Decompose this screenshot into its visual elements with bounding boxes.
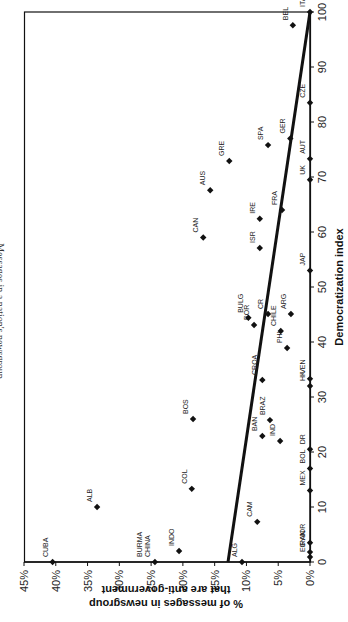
- x-tick-label: 60: [316, 226, 328, 238]
- chart-title: Messages in a nation's newsgroup: [0, 243, 6, 379]
- data-point-label: ITA: [299, 0, 306, 7]
- data-point: [259, 433, 265, 439]
- data-point-label: IRE: [249, 202, 256, 214]
- data-point-label: VEN: [299, 359, 306, 373]
- data-point-label: AUS: [199, 170, 206, 185]
- x-tick-label: 100: [316, 3, 328, 21]
- data-point-label: ARG: [280, 294, 287, 309]
- x-tick-label: 40: [316, 336, 328, 348]
- x-tick-label: 20: [316, 446, 328, 458]
- data-point-label: UK: [299, 165, 306, 175]
- y-axis-title-line1: % of messages in newsgroup: [89, 598, 243, 610]
- data-point: [307, 376, 313, 382]
- data-point: [307, 177, 313, 183]
- data-point: [307, 540, 313, 546]
- scatter-chart: Messages in a nation's newsgroup 0102030…: [0, 0, 348, 622]
- x-axis-ticks: 0102030405060708090100: [310, 3, 328, 565]
- data-point: [251, 322, 257, 328]
- data-point: [239, 559, 245, 565]
- data-point-label: GRE: [218, 141, 225, 157]
- data-point: [254, 519, 260, 525]
- data-point: [207, 187, 213, 193]
- data-point-label: IND: [269, 424, 276, 436]
- data-point-label: ISR: [249, 231, 256, 243]
- data-point: [307, 100, 313, 106]
- data-point: [307, 156, 313, 162]
- x-tick-label: 10: [316, 501, 328, 513]
- data-points: CUBACHINABURMAINDOALGEGYIRANJORALBCAMCOL…: [42, 0, 314, 565]
- data-point-label: MEX: [299, 470, 306, 486]
- data-point-label: CUBA: [42, 537, 49, 557]
- data-point-label: CAN: [192, 218, 199, 233]
- data-point: [277, 438, 283, 444]
- data-point: [259, 377, 265, 383]
- data-point-label: PHI: [276, 331, 283, 343]
- y-tick-label: 0%: [304, 570, 316, 586]
- trend-line: [228, 12, 310, 562]
- data-point-label: AUT: [299, 139, 306, 154]
- data-point: [307, 465, 313, 471]
- x-tick-label: 0: [316, 559, 328, 565]
- y-tick-label: 45%: [18, 570, 30, 592]
- data-point-label: INDO: [168, 528, 175, 546]
- data-point-label: ALG: [231, 543, 238, 557]
- data-point: [284, 345, 290, 351]
- x-axis-title: Democratization index: [333, 227, 345, 345]
- data-point: [257, 245, 263, 251]
- data-point: [226, 158, 232, 164]
- x-tick-label: 90: [316, 61, 328, 73]
- y-tick-label: 40%: [50, 570, 62, 592]
- data-point: [200, 234, 206, 240]
- data-point-label: CHINA: [144, 535, 151, 557]
- data-point-label: BRAZ: [259, 396, 266, 415]
- data-point-label: BAN: [251, 417, 258, 431]
- data-point: [94, 504, 100, 510]
- data-point-label: JAP: [299, 252, 306, 265]
- data-point-label: GER: [279, 118, 286, 133]
- data-point-label: BULG: [237, 294, 244, 313]
- data-point: [307, 267, 313, 273]
- data-point-label: SPA: [257, 126, 264, 140]
- data-point: [307, 487, 313, 493]
- data-point-label: CR: [257, 299, 264, 309]
- data-point: [189, 486, 195, 492]
- data-point: [307, 446, 313, 452]
- x-tick-label: 30: [316, 391, 328, 403]
- x-tick-label: 80: [316, 116, 328, 128]
- data-point: [265, 142, 271, 148]
- data-point-label: BURMA: [136, 531, 143, 557]
- y-tick-label: 10%: [240, 570, 252, 592]
- data-point: [257, 216, 263, 222]
- data-point-label: CROA: [251, 354, 258, 375]
- data-point: [176, 548, 182, 554]
- data-point: [190, 416, 196, 422]
- data-point-label: FRA: [271, 191, 278, 205]
- y-tick-label: 5%: [272, 570, 284, 586]
- x-tick-label: 50: [316, 281, 328, 293]
- data-point: [307, 9, 313, 15]
- data-point: [290, 22, 296, 28]
- y-axis-title-line2: that are anti-government: [101, 584, 230, 596]
- data-point-label: BOL: [299, 449, 306, 463]
- data-point: [267, 417, 273, 423]
- data-point-label: DR: [299, 434, 306, 444]
- data-point-label: JOR: [299, 524, 306, 538]
- data-point: [307, 549, 313, 555]
- x-tick-label: 70: [316, 171, 328, 183]
- data-point-label: ALB: [86, 488, 93, 502]
- data-point-label: CHILE: [270, 305, 277, 326]
- data-point: [152, 559, 158, 565]
- data-point-label: BEL: [282, 7, 289, 20]
- data-point: [49, 559, 55, 565]
- data-point-label: COL: [181, 469, 188, 484]
- data-point-label: CAM: [246, 501, 253, 517]
- data-point: [288, 311, 294, 317]
- data-point-label: BOS: [182, 399, 189, 414]
- y-tick-label: 35%: [82, 570, 94, 592]
- data-point: [307, 383, 313, 389]
- data-point-label: CZE: [299, 83, 306, 97]
